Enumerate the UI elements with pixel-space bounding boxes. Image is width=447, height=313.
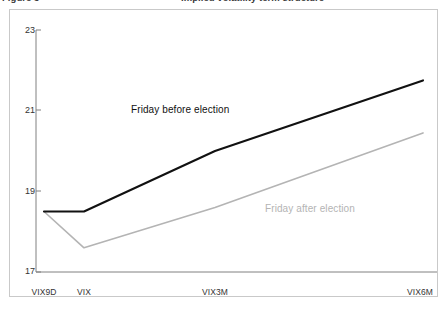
series-line-after xyxy=(44,133,423,248)
y-tick-marks xyxy=(36,30,41,272)
series-line-before xyxy=(44,80,423,211)
chart-figure: Figure 3 Implied volatility term structu… xyxy=(0,0,447,313)
plot-area xyxy=(0,0,447,313)
